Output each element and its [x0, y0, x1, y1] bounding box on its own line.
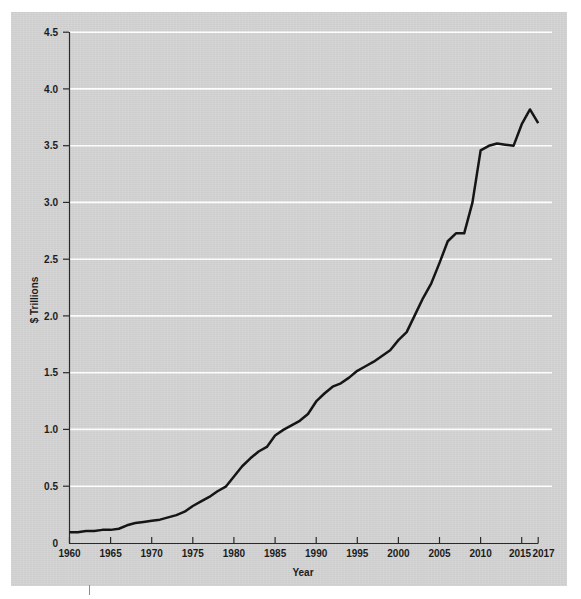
y-tick-label: 3.0: [44, 197, 58, 208]
y-axis-title: $ Trillions: [29, 276, 40, 323]
x-tick-label: 2010: [469, 548, 492, 559]
x-tick-label: 1985: [264, 548, 287, 559]
chart-plot-area: 4.5 4.0 3.5 3.0 2.5 2.0 1.5 1.0 0.5 0: [0, 0, 581, 599]
x-tick-label: 1960: [58, 548, 81, 559]
y-tick-labels-group: 4.5 4.0 3.5 3.0 2.5 2.0 1.5 1.0 0.5 0: [44, 27, 58, 549]
y-tick-label: 0.5: [44, 481, 58, 492]
y-tick-label: 4.5: [44, 27, 58, 38]
x-tick-label: 1975: [182, 548, 205, 559]
x-tick-label: 1970: [141, 548, 164, 559]
axis-spines-group: [69, 32, 538, 544]
x-tick-label: 1980: [223, 548, 246, 559]
x-tickmarks-group: [70, 537, 539, 544]
y-tick-label: 2.5: [44, 254, 58, 265]
gridlines-group: [69, 32, 552, 486]
x-tick-label: 1965: [99, 548, 122, 559]
x-tick-label: 1995: [346, 548, 369, 559]
x-tick-label: 2000: [387, 548, 410, 559]
y-tickmarks-group: [63, 32, 69, 486]
y-tick-label: 3.5: [44, 140, 58, 151]
x-tick-labels-group: 1960 1965 1970 1975 1980 1985 1990 1995 …: [58, 548, 555, 559]
x-tick-label: 2015: [509, 548, 532, 559]
chart-figure: 4.5 4.0 3.5 3.0 2.5 2.0 1.5 1.0 0.5 0: [0, 0, 581, 599]
y-tick-label: 4.0: [44, 84, 58, 95]
x-tick-label: 2005: [428, 548, 451, 559]
y-tick-label: 2.0: [44, 311, 58, 322]
y-tick-label: 1.0: [44, 424, 58, 435]
x-tick-label: 2017: [532, 548, 555, 559]
y-tick-label: 1.5: [44, 367, 58, 378]
x-axis-title: Year: [292, 567, 313, 578]
x-tick-label: 1990: [305, 548, 328, 559]
data-series-line: [70, 109, 539, 532]
